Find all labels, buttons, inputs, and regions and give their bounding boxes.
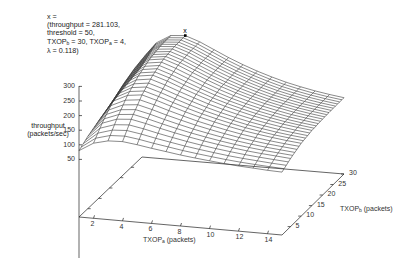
y-tick-label: 20 xyxy=(328,190,336,198)
z-tick-label: 100 xyxy=(55,141,75,148)
x-tick-label: 4 xyxy=(120,223,124,231)
wireframe-surface xyxy=(79,36,344,173)
y-tick-label: 30 xyxy=(349,169,357,177)
svg-text:x: x xyxy=(183,27,187,34)
y-tick-label: 10 xyxy=(306,211,314,219)
z-tick-label: 250 xyxy=(55,97,75,104)
y-tick-label: 25 xyxy=(338,180,346,188)
y-tick-label: 15 xyxy=(317,201,325,209)
x-tick-label: 12 xyxy=(236,233,244,241)
x-tick-label: 6 xyxy=(149,225,153,233)
annotation-line-5: λ = 0.118) xyxy=(47,47,126,55)
x-tick-label: 10 xyxy=(207,231,215,239)
z-tick-label: 300 xyxy=(55,82,75,89)
x-axis-title: TXOPa (packets) xyxy=(143,236,196,245)
x-tick-label: 14 xyxy=(265,236,273,244)
y-axis-title: TXOPb (packets) xyxy=(340,205,393,214)
y-tick-label: 5 xyxy=(296,222,300,230)
z-tick-label: 200 xyxy=(55,112,75,119)
z-tick-label: 50 xyxy=(55,155,75,162)
z-tick-label: 150 xyxy=(55,126,75,133)
x-tick-label: 8 xyxy=(178,228,182,236)
peak-annotation: x = (throughput = 281.103, threshold = 5… xyxy=(47,13,126,55)
x-tick-label: 2 xyxy=(91,220,95,228)
